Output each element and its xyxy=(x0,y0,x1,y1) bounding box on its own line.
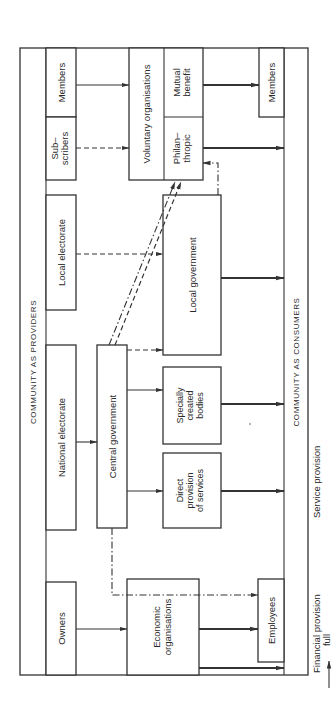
svg-text:bodies: bodies xyxy=(195,392,205,419)
funding-flow-diagram: COMMUNITY AS PROVIDERS COMMUNITY AS CONS… xyxy=(0,0,334,708)
svg-text:Local government: Local government xyxy=(187,237,198,313)
members-consumer-box: Members xyxy=(259,48,284,117)
svg-text:Owners: Owners xyxy=(56,612,67,645)
svg-text:Central government: Central government xyxy=(107,394,118,478)
national-electorate-box: National electorate xyxy=(46,345,76,530)
consumers-label: COMMUNITY AS CONSUMERS xyxy=(292,297,301,426)
arrow-local-gov-to-philanthropic xyxy=(203,163,218,195)
legend: Financial provision full Service provisi… xyxy=(311,446,332,688)
svg-text:Members: Members xyxy=(56,62,67,102)
direct-provision-box: Direct provision of services xyxy=(163,453,221,528)
local-government-box: Local government xyxy=(163,195,221,355)
specially-created-bodies-box: Specially created bodies xyxy=(163,367,221,444)
svg-text:National electorate: National electorate xyxy=(56,398,67,477)
subscribers-box: Sub– scribers xyxy=(46,117,76,180)
legend-financial-provision: Financial provision xyxy=(311,594,322,673)
svg-text:Specially: Specially xyxy=(175,387,185,424)
providers-label-text: COMMUNITY AS PROVIDERS xyxy=(29,300,38,424)
svg-text:Economic: Economic xyxy=(151,606,162,648)
svg-text:Members: Members xyxy=(266,62,277,102)
svg-text:created: created xyxy=(185,390,195,420)
svg-text:benefit: benefit xyxy=(181,68,192,97)
members-provider-box: Members xyxy=(46,48,76,117)
svg-text:Local electorate: Local electorate xyxy=(56,219,67,286)
providers-label: COMMUNITY AS PROVIDERS xyxy=(29,300,38,424)
legend-service-provision: Service provision xyxy=(311,446,322,518)
owners-box: Owners xyxy=(46,582,76,675)
employees-box: Employees xyxy=(258,579,284,662)
svg-text:scribers: scribers xyxy=(59,132,70,166)
svg-text:Employees: Employees xyxy=(266,597,277,644)
svg-text:Direct: Direct xyxy=(175,478,185,502)
svg-text:organisations: organisations xyxy=(162,598,173,655)
print-speck xyxy=(249,423,251,425)
svg-text:provision: provision xyxy=(185,472,195,508)
legend-full: full xyxy=(321,634,332,646)
central-government-box: Central government xyxy=(97,345,127,528)
svg-text:of services: of services xyxy=(195,468,205,512)
svg-text:thropic: thropic xyxy=(181,134,192,163)
consumers-label-text: COMMUNITY AS CONSUMERS xyxy=(292,297,301,426)
economic-organisations-box: Economic organisations xyxy=(127,579,199,675)
local-electorate-box: Local electorate xyxy=(46,195,76,310)
philanthropic-box: Philan– thropic xyxy=(171,132,192,164)
svg-text:Voluntary organisations: Voluntary organisations xyxy=(141,64,152,163)
mutual-benefit-box: Mutual benefit xyxy=(171,68,192,97)
